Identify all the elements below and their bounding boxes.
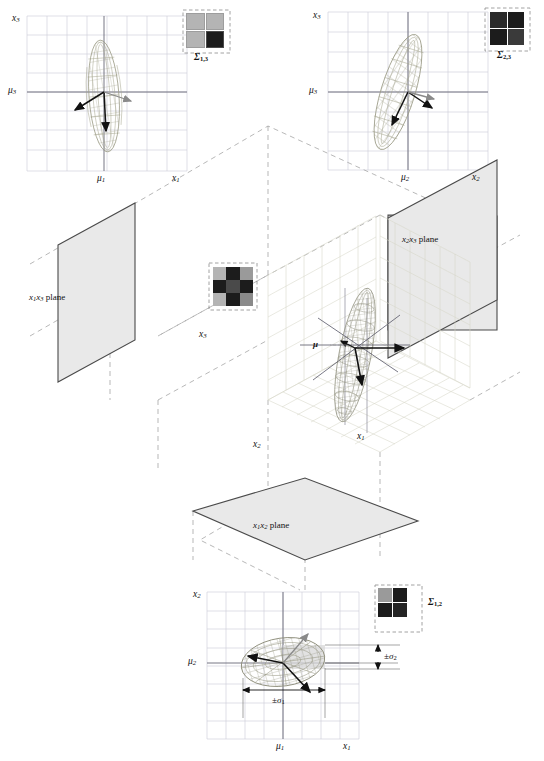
matrix-cell	[508, 12, 525, 28]
matrix-cell	[206, 13, 225, 30]
scene3d-mean-label: μ	[313, 340, 318, 349]
panel-x1x2-graphics	[207, 592, 400, 739]
matrix-cell	[490, 12, 507, 28]
matrix-cell	[186, 13, 205, 30]
matrix-cell	[378, 603, 392, 617]
matrix-cell	[393, 603, 407, 617]
plane-label-x1x3: x1x3 plane	[29, 292, 65, 302]
panel-x2x3-x-axis-label: x2	[472, 173, 480, 183]
panel-x2x3-graphics	[328, 12, 488, 170]
panel-x1x3-graphics	[27, 16, 187, 171]
panel-x1x2-mean-y-label: μ2	[188, 657, 196, 667]
plane-label-x2x3: x2x3 plane	[402, 234, 438, 244]
matrix-cell	[378, 588, 392, 602]
matrix-sigma-sub: 1,3	[200, 55, 208, 62]
scene3d-axis-x3-label: x3	[199, 330, 207, 340]
covariance-matrix-icon-x2x3	[490, 12, 524, 45]
panel-x1x2-y-axis-label: x2	[193, 590, 201, 600]
matrix-cell	[240, 293, 253, 306]
plane-label-x1x2: x1x2 plane	[253, 520, 289, 530]
covariance-matrix-icon-full	[213, 267, 253, 306]
matrix-cell	[490, 29, 507, 45]
figure-root: Σ1,3 Σ2,3 Σ1,2 x3 μ3 μ1 x1 x3 μ3 μ2 x2	[0, 0, 544, 761]
matrix-cell	[186, 31, 205, 48]
plane-x1x2	[193, 478, 418, 560]
matrix-cell	[213, 280, 226, 293]
panel-x2x3-mean-x-label: μ2	[401, 173, 409, 183]
matrix-caption-x1x2: Σ1,2	[428, 597, 442, 607]
matrix-cell	[508, 29, 525, 45]
matrix-cell	[240, 267, 253, 280]
matrix-sigma-sub: 2,3	[503, 53, 511, 60]
panel-x1x2-ellipse	[238, 632, 328, 691]
panel-x1x3-mean-y-label: μ3	[8, 86, 16, 96]
panel-x1x3-y-axis-label: x3	[12, 14, 20, 24]
panel-x2x3-mean-y-label: μ3	[309, 86, 317, 96]
matrix-cell	[226, 293, 239, 306]
matrix-cell	[226, 267, 239, 280]
matrix-cell	[240, 280, 253, 293]
plane-x1x3	[58, 203, 135, 382]
matrix-cell	[206, 31, 225, 48]
matrix-cell	[393, 588, 407, 602]
matrix-sigma-sub: 1,2	[434, 600, 442, 607]
matrix-cell	[226, 280, 239, 293]
matrix-caption-x2x3: Σ2,3	[497, 50, 511, 60]
panel-x1x2-mean-x-label: μ1	[276, 742, 284, 752]
matrix-cell	[213, 293, 226, 306]
covariance-matrix-icon-x1x3	[186, 13, 222, 46]
sigma1-annotation-label: ±σ1	[272, 695, 285, 705]
scene3d-axis-x1-label: x1	[357, 432, 365, 442]
panel-x2x3-y-axis-label: x3	[313, 11, 321, 21]
scene3d-axis-x2-label: x2	[253, 440, 261, 450]
matrix-caption-x1x3: Σ1,3	[194, 52, 208, 62]
figure-canvas	[0, 0, 544, 761]
panel-x1x3-x-axis-label: x1	[172, 174, 180, 184]
covariance-matrix-icon-x1x2	[378, 588, 407, 617]
panel-x1x2-x-axis-label: x1	[343, 742, 351, 752]
sigma2-annotation-label: ±σ2	[384, 651, 397, 661]
matrix-cell	[213, 267, 226, 280]
panel-x1x3-mean-x-label: μ1	[97, 174, 105, 184]
